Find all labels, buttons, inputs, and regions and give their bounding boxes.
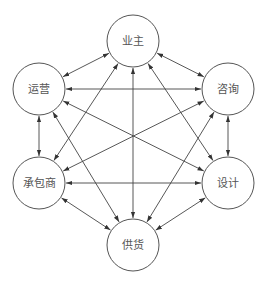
node-consulting: 咨询	[202, 63, 254, 115]
edge-consulting-supply	[147, 112, 214, 222]
node-operation: 运营	[13, 63, 65, 115]
edge-owner-consulting	[157, 53, 204, 77]
node-supply: 供货	[107, 219, 159, 271]
node-design-label: 设计	[217, 177, 239, 190]
node-operation-label: 运营	[28, 82, 50, 96]
edge-operation-supply	[53, 112, 119, 222]
stakeholder-network-diagram: 业主 运营 咨询 承包商 设计 供货	[0, 0, 262, 281]
node-contractor: 承包商	[13, 157, 65, 209]
node-owner: 业主	[107, 15, 159, 67]
edge-owner-operation	[63, 53, 109, 76]
node-consulting-label: 咨询	[217, 82, 239, 96]
node-design: 设计	[202, 157, 254, 209]
nodes-layer: 业主 运营 咨询 承包商 设计 供货	[13, 15, 254, 271]
edge-design-supply	[156, 198, 206, 230]
node-supply-label: 供货	[122, 238, 144, 252]
edge-contractor-supply	[62, 198, 111, 230]
edges-layer	[39, 53, 228, 230]
node-owner-label: 业主	[122, 35, 144, 48]
node-contractor-label: 承包商	[23, 176, 56, 190]
edge-owner-design	[148, 63, 213, 160]
